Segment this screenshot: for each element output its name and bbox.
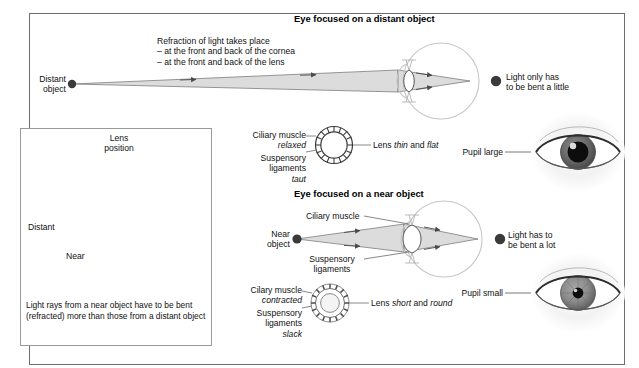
refraction-note-line3: – at the front and back of the lens [157,57,285,67]
refraction-note-line1: Refraction of light takes place [157,36,270,46]
distant-suspensory-ligaments-label: Suspensoryligamentstaut [228,153,306,184]
distant-result-label: Light only hasto be bent a little [506,72,569,93]
near-suspensory-ligaments-label: Suspensoryligamentsslack [224,308,302,339]
refraction-note: Refraction of light takes place– at the … [157,36,295,67]
pupil-large-label: Pupil large [455,147,503,157]
near-ciliary-muscle-label: Cilary musclecontracted [224,285,302,306]
inset-caption: Light rays from a near object have to be… [26,300,206,321]
inset-lens-position-label: Lensposition [92,133,146,154]
inset-distant-label: Distant [28,222,55,232]
near-result-label: Light has tobe bent a lot [508,230,555,251]
distant-section-title: Eye focused on a distant object [294,13,435,24]
near-object-label: Nearobject [240,229,290,250]
diagram-page: Eye focused on a distant object Refracti… [0,0,639,368]
distant-ciliary-muscle-label: Ciliary musclerelaxed [228,130,306,151]
near-lens-shape-label: Lens short and round [371,298,452,308]
near-ciliary-muscle-inline-label: Ciliary muscle [306,211,359,221]
near-section-title: Eye focused on a near object [294,188,424,199]
near-suspensory-ligaments-inline-label: Suspensoryligaments [300,254,364,275]
pupil-small-label: Pupil small [452,288,503,298]
inset-near-label: Near [66,251,85,261]
distant-lens-shape-label: Lens thin and flat [373,140,438,150]
distant-object-label: Distantobject [12,74,66,95]
refraction-note-line2: – at the front and back of the cornea [157,46,295,56]
